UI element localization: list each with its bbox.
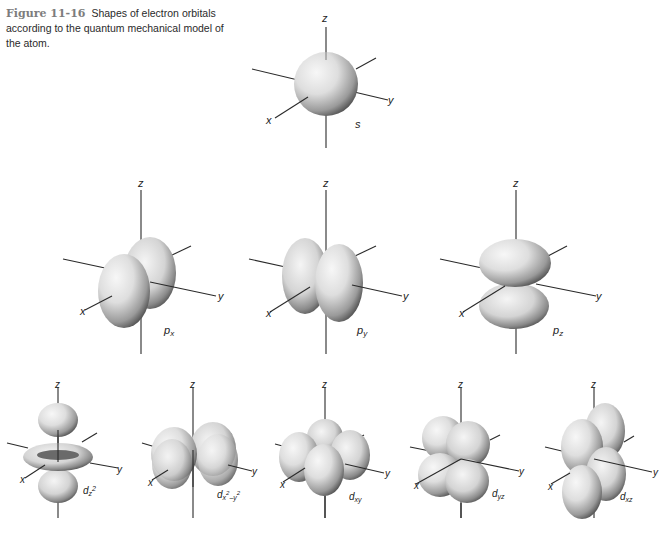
axis-y-label: y	[595, 290, 603, 302]
axis-y-label: y	[387, 94, 395, 106]
axis-x-label: x	[19, 474, 26, 485]
axis-z-label: z	[54, 379, 60, 390]
axis-y-label: y	[116, 464, 123, 475]
axis-y-label: y	[384, 468, 391, 479]
axis-x-label: x	[265, 307, 272, 319]
orbital-label-dx2-y2: dx2–y2	[217, 489, 241, 502]
axis-x-label: x	[547, 481, 554, 492]
axis-x-label: x	[458, 307, 465, 319]
axis-x-label: x	[279, 479, 286, 490]
axis-y-label: y	[652, 467, 659, 478]
s-sphere	[294, 52, 358, 116]
axis-z-label: z	[189, 379, 195, 390]
axis-y-label: y	[518, 466, 525, 477]
axis-y-label: y	[251, 466, 258, 477]
axis-y-label: y	[217, 290, 225, 302]
orbital-dyz: z y x dyz	[410, 379, 525, 518]
axis-z-label: z	[137, 177, 144, 189]
axis-x-label: x	[413, 480, 420, 491]
orbital-px: z y x px	[63, 177, 225, 354]
orbital-dxy: z y x dxy	[275, 379, 391, 518]
axis-x-label: x	[79, 305, 86, 317]
axis-z-label: z	[321, 379, 327, 390]
orbital-label-dxz: dxz	[620, 491, 633, 503]
orbital-label-pz: pz	[552, 324, 563, 338]
axis-z-label: z	[590, 379, 596, 390]
axis-z-label: z	[322, 177, 329, 189]
orbital-label-s: s	[355, 118, 361, 130]
axis-z-label: z	[457, 379, 463, 390]
orbital-s: z y x s	[252, 12, 395, 148]
orbital-py: z y x py	[249, 177, 410, 354]
orbital-pz: z y x pz	[440, 177, 603, 354]
axis-z-label: z	[512, 177, 519, 189]
orbital-label-py: py	[356, 324, 368, 338]
orbital-dz2: z y x dz2	[7, 379, 123, 518]
orbital-dxz: z y x dxz	[545, 379, 659, 519]
orbital-dx2-y2: z y x dx2–y2	[142, 379, 258, 518]
orbital-label-dxy: dxy	[349, 491, 362, 504]
orbital-figure: z y x s z y x px z y x py	[0, 0, 666, 535]
axis-x-label: x	[147, 477, 154, 488]
axis-y-label: y	[402, 290, 410, 302]
orbital-label-dyz: dyz	[492, 488, 505, 501]
orbital-label-dz2: dz2	[83, 485, 96, 497]
orbital-label-px: px	[163, 324, 175, 338]
axis-z-label: z	[321, 12, 328, 24]
axis-x-label: x	[265, 114, 272, 126]
